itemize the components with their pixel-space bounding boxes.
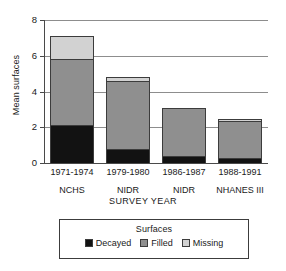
bar-segment-missing[interactable]: [50, 36, 94, 59]
bar-stack[interactable]: [106, 20, 150, 163]
y-tick-label: 8: [32, 15, 37, 25]
bar-segment-decayed[interactable]: [50, 125, 94, 163]
bar-segment-missing[interactable]: [218, 119, 262, 121]
plot-area: 02468: [44, 20, 268, 163]
legend-item-label: Missing: [193, 238, 224, 248]
bar-stack[interactable]: [162, 20, 206, 163]
legend-item-filled[interactable]: Filled: [140, 238, 173, 248]
legend: Surfaces DecayedFilledMissing: [59, 219, 249, 259]
bar-segment-filled[interactable]: [162, 108, 206, 155]
bar-stack[interactable]: [50, 20, 94, 163]
legend-swatch-icon: [85, 239, 93, 247]
x-axis-line: [44, 163, 268, 164]
y-tick-label: 2: [32, 123, 37, 133]
bar-segment-filled[interactable]: [218, 121, 262, 158]
y-tick-mark: [40, 92, 45, 93]
legend-items: DecayedFilledMissing: [60, 238, 248, 248]
bar-segment-missing[interactable]: [106, 77, 150, 81]
bar-segment-missing[interactable]: [162, 108, 206, 110]
legend-item-label: Filled: [151, 238, 173, 248]
legend-item-label: Decayed: [96, 238, 132, 248]
y-tick-mark: [40, 163, 45, 164]
bar-segment-decayed[interactable]: [218, 158, 262, 163]
legend-swatch-icon: [140, 239, 148, 247]
legend-item-decayed[interactable]: Decayed: [85, 238, 132, 248]
bar-stack[interactable]: [218, 20, 262, 163]
stacked-bar-chart-figure: Mean surfaces 02468 1971-1974NCHS1979-19…: [0, 0, 286, 271]
x-tick-label: 1988-1991NHANES III: [203, 168, 277, 196]
x-tick-label-survey: NHANES III: [203, 186, 277, 195]
bar-segment-filled[interactable]: [50, 59, 94, 125]
y-tick-mark: [40, 127, 45, 128]
bar-segment-decayed[interactable]: [106, 149, 150, 163]
x-tick-label-year: 1988-1991: [203, 168, 277, 177]
y-tick-mark: [40, 56, 45, 57]
y-tick-label: 6: [32, 51, 37, 61]
legend-swatch-icon: [182, 239, 190, 247]
y-axis-title: Mean surfaces: [11, 40, 21, 130]
y-tick-label: 4: [32, 87, 37, 97]
y-tick-label: 0: [32, 158, 37, 168]
legend-item-missing[interactable]: Missing: [182, 238, 224, 248]
bar-segment-filled[interactable]: [106, 81, 150, 149]
x-axis-title: SURVEY YEAR: [0, 196, 286, 206]
bar-segment-decayed[interactable]: [162, 156, 206, 163]
y-tick-mark: [40, 20, 45, 21]
legend-title: Surfaces: [60, 224, 248, 234]
